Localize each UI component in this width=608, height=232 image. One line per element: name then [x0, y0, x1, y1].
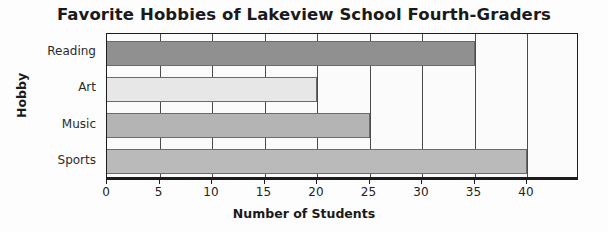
x-tick-label-40: 40 — [518, 185, 533, 199]
x-tickmark — [159, 178, 160, 184]
x-tick-label-20: 20 — [308, 185, 323, 199]
x-axis-title: Number of Students — [0, 206, 608, 221]
plot-area — [106, 33, 578, 178]
bar-sports — [107, 149, 527, 174]
gridline — [527, 34, 528, 177]
y-tick-label-music: Music — [62, 117, 96, 131]
bar-art — [107, 77, 317, 102]
x-tickmark — [264, 178, 265, 184]
bar-reading — [107, 41, 475, 66]
bar-chart: Favorite Hobbies of Lakeview School Four… — [0, 0, 608, 232]
x-tickmark — [526, 178, 527, 184]
x-tick-label-35: 35 — [466, 185, 481, 199]
x-tickmark — [369, 178, 370, 184]
y-tick-label-reading: Reading — [47, 44, 96, 58]
x-tickmark — [421, 178, 422, 184]
y-tick-label-sports: Sports — [58, 153, 96, 167]
x-tick-label-15: 15 — [256, 185, 271, 199]
x-tickmark — [106, 178, 107, 184]
x-tick-label-25: 25 — [361, 185, 376, 199]
x-tickmark — [474, 178, 475, 184]
chart-title: Favorite Hobbies of Lakeview School Four… — [0, 5, 608, 24]
y-axis-tick-labels: ReadingArtMusicSports — [0, 33, 102, 178]
x-tick-label-0: 0 — [102, 185, 110, 199]
bar-music — [107, 113, 370, 138]
x-tickmark — [211, 178, 212, 184]
y-tick-label-art: Art — [78, 80, 96, 94]
x-tick-label-10: 10 — [203, 185, 218, 199]
x-tickmark — [316, 178, 317, 184]
x-axis-ticks: 0510152025303540 — [0, 178, 608, 204]
x-tick-label-30: 30 — [413, 185, 428, 199]
x-tick-label-5: 5 — [155, 185, 163, 199]
